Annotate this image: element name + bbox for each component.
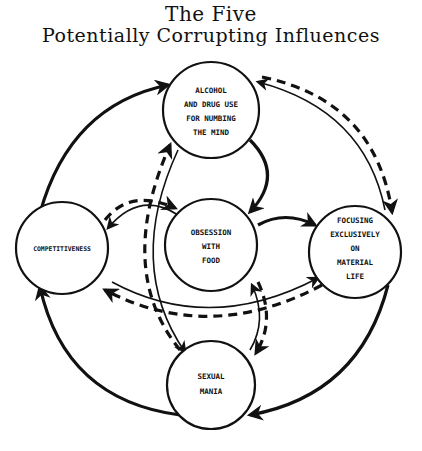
svg-text:MATERIAL: MATERIAL (337, 258, 374, 267)
arrow-alcohol-to-food (250, 140, 268, 212)
svg-text:SEXUAL: SEXUAL (197, 372, 225, 381)
node-alcohol: ALCOHOL AND DRUG USE FOR NUMBING THE MIN… (163, 62, 259, 158)
svg-text:COMPETITIVENESS: COMPETITIVENESS (33, 245, 91, 253)
svg-text:OBSESSION: OBSESSION (191, 228, 232, 237)
arrow-material-to-alcohol (258, 82, 385, 210)
arrow-sexual-to-competitiveness (40, 287, 180, 415)
alcohol-material-arrows (258, 77, 392, 212)
svg-text:MANIA: MANIA (200, 387, 223, 396)
svg-text:ALCOHOL: ALCOHOL (195, 86, 227, 95)
svg-text:FOR NUMBING: FOR NUMBING (186, 114, 236, 123)
arrow-alcohol-to-material (262, 77, 392, 212)
arrow-sexual-to-food (250, 285, 260, 350)
arrow-competitiveness-to-alcohol (40, 85, 168, 213)
svg-text:THE MIND: THE MIND (193, 128, 230, 137)
node-sexual: SEXUAL MANIA (167, 341, 255, 429)
node-food: OBSESSION WITH FOOD (165, 199, 257, 291)
svg-text:WITH: WITH (202, 242, 221, 251)
svg-text:FOOD: FOOD (202, 256, 221, 265)
arrow-food-to-sexual (256, 282, 267, 353)
node-competitiveness: COMPETITIVENESS (16, 202, 108, 294)
svg-text:FOCUSING: FOCUSING (337, 216, 374, 225)
arrow-food-to-material (258, 218, 315, 226)
competitiveness-food-arrows (105, 200, 178, 228)
node-material: FOCUSING EXCLUSIVELY ON MATERIAL LIFE (309, 206, 401, 298)
svg-text:EXCLUSIVELY: EXCLUSIVELY (330, 230, 380, 239)
arrow-material-to-sexual (250, 285, 388, 415)
svg-text:ON: ON (350, 244, 360, 253)
svg-text:AND DRUG USE: AND DRUG USE (184, 100, 239, 109)
svg-text:LIFE: LIFE (346, 272, 365, 281)
influence-diagram: ALCOHOL AND DRUG USE FOR NUMBING THE MIN… (0, 0, 422, 451)
food-sexual-arrows (250, 282, 267, 353)
arrow-competitiveness-to-food (105, 200, 175, 220)
